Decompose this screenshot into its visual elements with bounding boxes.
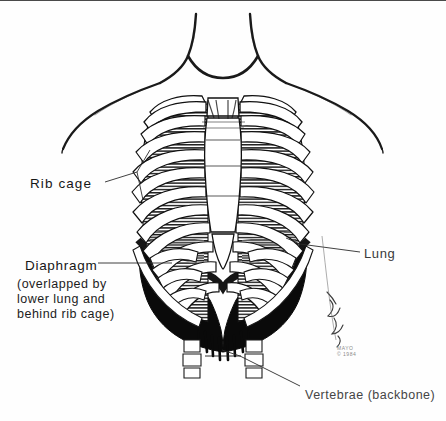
label-lung: Lung [364, 246, 395, 261]
label-rib-cage: Rib cage [30, 176, 92, 191]
mayo-copyright-credit: MAYO © 1984 [337, 345, 356, 357]
anatomy-illustration [0, 0, 446, 421]
label-diaphragm-note: (overlapped by lower lung and behind rib… [17, 277, 115, 322]
leader-ribcage [105, 172, 137, 182]
chest-anatomy-figure: Rib cage Diaphragm (overlapped by lower … [0, 0, 446, 421]
label-diaphragm: Diaphragm [25, 258, 97, 273]
body-flank-line [322, 236, 336, 340]
sternum-body [205, 118, 242, 232]
label-vertebrae: Vertebrae (backbone) [305, 388, 435, 402]
